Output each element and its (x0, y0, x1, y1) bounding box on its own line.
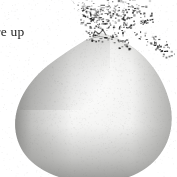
fruit-illustration (0, 0, 177, 177)
scanned-page: re up (0, 0, 177, 177)
caption-text-fragment: re up (0, 25, 24, 39)
